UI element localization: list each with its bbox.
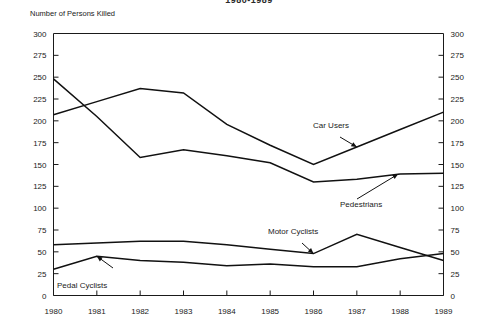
annotation-label: Pedestrians bbox=[340, 200, 382, 209]
line-chart: 1980-1989 Number of Persons Killed 02550… bbox=[0, 0, 498, 334]
y-axis-left-ticks: 0255075100125150175200225250275300 bbox=[33, 30, 58, 301]
y-tick-label-right: 200 bbox=[451, 117, 465, 126]
axes-frame bbox=[54, 34, 444, 296]
chart-plot-area: 0255075100125150175200225250275300 02550… bbox=[0, 0, 498, 334]
x-tick-label: 1987 bbox=[348, 307, 366, 316]
x-tick-label: 1982 bbox=[131, 307, 149, 316]
y-tick-label-left: 0 bbox=[42, 292, 47, 301]
x-tick-label: 1983 bbox=[175, 307, 193, 316]
y-tick-label-right: 225 bbox=[451, 95, 465, 104]
y-tick-label-right: 275 bbox=[451, 51, 465, 60]
y-tick-label-left: 250 bbox=[33, 73, 47, 82]
y-tick-label-left: 225 bbox=[33, 95, 47, 104]
y-tick-label-right: 25 bbox=[451, 270, 460, 279]
y-tick-label-left: 75 bbox=[38, 226, 47, 235]
x-tick-label: 1984 bbox=[218, 307, 236, 316]
y-tick-label-right: 125 bbox=[451, 182, 465, 191]
x-tick-label: 1989 bbox=[435, 307, 453, 316]
annotation-label: Car Users bbox=[313, 121, 349, 130]
y-tick-label-left: 175 bbox=[33, 139, 47, 148]
annotation-label: Pedal Cyclists bbox=[57, 281, 107, 290]
y-tick-label-right: 250 bbox=[451, 73, 465, 82]
x-axis-ticks: 1980198119821983198419851986198719881989 bbox=[45, 291, 453, 316]
y-tick-label-left: 150 bbox=[33, 161, 47, 170]
y-tick-label-right: 0 bbox=[451, 292, 456, 301]
y-tick-label-right: 150 bbox=[451, 161, 465, 170]
y-tick-label-left: 25 bbox=[38, 270, 47, 279]
y-tick-label-left: 125 bbox=[33, 182, 47, 191]
series-line bbox=[54, 79, 444, 182]
series-lines-group bbox=[54, 79, 444, 269]
y-tick-label-left: 200 bbox=[33, 117, 47, 126]
y-tick-label-right: 300 bbox=[451, 30, 465, 39]
series-line bbox=[54, 234, 444, 260]
x-tick-label: 1981 bbox=[88, 307, 106, 316]
y-tick-label-right: 75 bbox=[451, 226, 460, 235]
y-tick-label-right: 175 bbox=[451, 139, 465, 148]
y-tick-label-right: 100 bbox=[451, 204, 465, 213]
annotations-group: Car UsersPedestriansMotor CyclistsPedal … bbox=[57, 121, 398, 290]
y-tick-label-left: 300 bbox=[33, 30, 47, 39]
y-tick-label-right: 50 bbox=[451, 248, 460, 257]
y-tick-label-left: 50 bbox=[38, 248, 47, 257]
x-tick-label: 1980 bbox=[45, 307, 63, 316]
annotation-arrowhead bbox=[392, 174, 398, 179]
annotation-label: Motor Cyclists bbox=[268, 227, 318, 236]
series-line bbox=[54, 89, 444, 165]
x-tick-label: 1986 bbox=[305, 307, 323, 316]
y-tick-label-left: 100 bbox=[33, 204, 47, 213]
x-tick-label: 1985 bbox=[261, 307, 279, 316]
y-tick-label-left: 275 bbox=[33, 51, 47, 60]
x-tick-label: 1988 bbox=[391, 307, 409, 316]
